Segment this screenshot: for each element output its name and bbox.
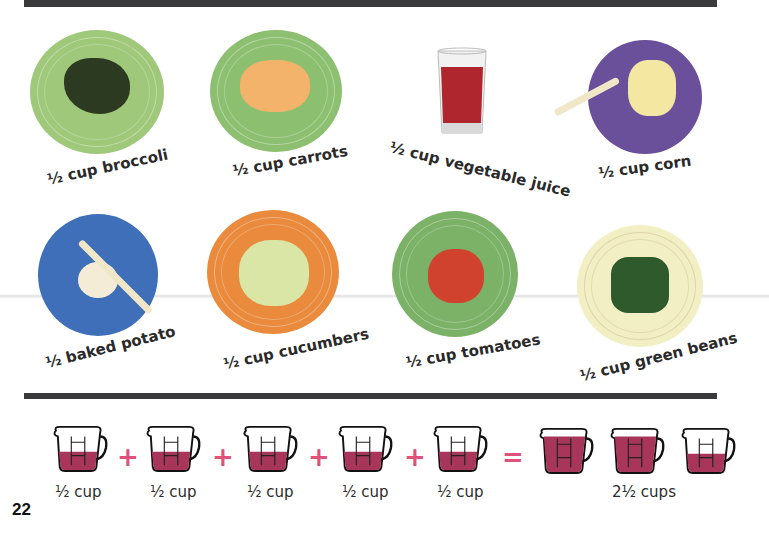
header-bar	[24, 0, 717, 7]
label-cucumbers: ½ cup cucumbers	[222, 325, 371, 373]
green-beans-food	[611, 257, 669, 313]
measuring-cup-full-1	[536, 425, 594, 475]
plus-sign: +	[404, 442, 426, 472]
plus-sign: +	[308, 442, 330, 472]
result-label: 2½ cups	[612, 483, 676, 501]
cucumbers-food	[239, 240, 309, 306]
tomatoes-food	[428, 249, 484, 303]
measuring-cup-half-2	[143, 423, 201, 473]
plate-baked-potato	[38, 214, 158, 336]
juice-liquid	[441, 67, 483, 123]
measuring-cup-half-1	[50, 423, 108, 473]
plate-green-beans	[577, 225, 703, 347]
measuring-cup-half-4	[335, 423, 393, 473]
plate-carrots	[210, 30, 342, 152]
plus-sign: +	[212, 442, 234, 472]
measuring-cup-half-5	[430, 423, 488, 473]
cup-label-3: ½ cup	[247, 483, 294, 501]
plate-broccoli	[30, 30, 164, 154]
plate-corn	[588, 40, 702, 154]
potato-food	[78, 262, 118, 298]
carrots-food	[240, 60, 310, 112]
cup-label-4: ½ cup	[342, 483, 389, 501]
cup-label-5: ½ cup	[437, 483, 484, 501]
plate-cucumbers	[207, 210, 339, 334]
page-number: 22	[12, 500, 31, 520]
cup-label-1: ½ cup	[55, 483, 102, 501]
equals-sign: =	[502, 442, 524, 472]
juice-glass	[436, 47, 488, 137]
plus-sign: +	[117, 442, 139, 472]
measuring-cup-half-3	[240, 423, 298, 473]
label-tomatoes: ½ cup tomatoes	[404, 330, 541, 371]
label-vegetable-juice: ½ cup vegetable juice	[388, 138, 573, 200]
measuring-cup-full-2	[607, 425, 665, 475]
corn-food	[628, 60, 676, 116]
plate-tomatoes	[392, 211, 518, 337]
label-corn: ½ cup corn	[597, 152, 692, 183]
cup-label-2: ½ cup	[150, 483, 197, 501]
measuring-cup-half-6	[678, 425, 736, 475]
section-divider	[24, 393, 717, 399]
